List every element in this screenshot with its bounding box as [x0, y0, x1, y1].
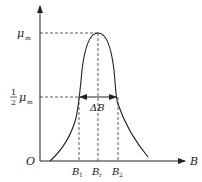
svg-text:1: 1 [11, 88, 16, 97]
svg-text:2: 2 [11, 98, 16, 107]
delta-b-label: ΔB [89, 102, 105, 113]
x-axis-label: B [189, 155, 198, 168]
svg-text:r: r [99, 171, 102, 178]
svg-text:m: m [27, 98, 33, 105]
b2-label: B 2 [111, 166, 123, 178]
half-value-label: 1 2 μ m [10, 88, 33, 107]
peak-value-label: μ m [17, 27, 31, 41]
origin-label: O [26, 155, 35, 168]
svg-text:μ: μ [19, 91, 26, 104]
svg-text:2: 2 [119, 171, 123, 178]
resonance-curve-diagram: O B μ m 1 2 μ m ΔB B 1 B r B 2 [0, 0, 202, 182]
b1-label: B 1 [71, 166, 83, 178]
svg-text:m: m [25, 34, 31, 41]
svg-text:μ: μ [17, 27, 24, 40]
br-label: B r [91, 166, 102, 178]
svg-text:1: 1 [79, 171, 83, 178]
